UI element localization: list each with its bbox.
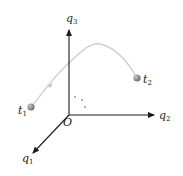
- point-t1-marker: [27, 103, 34, 110]
- diagram-canvas: q3 q2 q1 O t1 t2: [0, 0, 183, 176]
- point-t2-label: t2: [143, 73, 152, 87]
- axis-q2-label: q2: [159, 109, 171, 123]
- origin-label: O: [63, 116, 72, 129]
- point-t2-marker: [133, 74, 140, 81]
- axis-q3-label: q3: [66, 12, 78, 26]
- projection-dot: [81, 99, 83, 101]
- projection-dot: [84, 106, 86, 108]
- point-t1-label: t1: [18, 104, 27, 118]
- projection-dot: [74, 96, 76, 98]
- axis-q1-label: q1: [22, 152, 34, 166]
- trajectory-curve: [31, 44, 137, 107]
